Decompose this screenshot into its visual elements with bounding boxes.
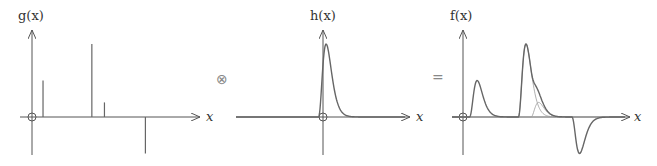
equals-operator: = xyxy=(432,69,444,85)
panel-f: f(x) x xyxy=(450,8,642,155)
convolution-operator: ⊗ xyxy=(216,71,228,87)
panel-g: g(x) x xyxy=(18,8,214,155)
panel-h: h(x) x xyxy=(236,8,424,155)
h-impulse-response xyxy=(236,44,405,117)
convolution-diagram: g(x) x ⊗ h(x) x = f(x) x xyxy=(0,0,657,166)
f-label: f(x) xyxy=(450,8,472,23)
g-label: g(x) xyxy=(18,8,44,23)
h-x-label: x xyxy=(416,109,424,124)
g-x-label: x xyxy=(206,109,214,124)
f-x-label: x xyxy=(634,109,642,124)
f-output-signal xyxy=(452,44,625,154)
f-component-curve xyxy=(452,102,625,117)
h-label: h(x) xyxy=(310,8,336,23)
